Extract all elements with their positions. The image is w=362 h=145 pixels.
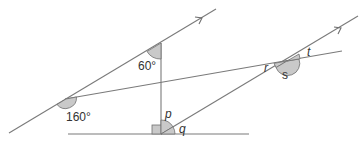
right-angle-marker — [152, 125, 161, 134]
label-60: 60° — [138, 59, 156, 73]
angle-60-marker — [147, 43, 161, 59]
lower-parallel-line — [161, 16, 358, 134]
label-s: s — [282, 68, 288, 82]
label-r: r — [264, 61, 269, 75]
angle-160-marker — [57, 97, 77, 109]
upper-parallel-line — [9, 9, 216, 133]
lower-parallel-arrow-icon — [334, 27, 341, 34]
label-p: p — [164, 107, 172, 121]
label-160: 160° — [66, 110, 91, 124]
label-q: q — [179, 122, 186, 136]
geometry-diagram: 60° 160° p q r s t — [0, 0, 362, 145]
